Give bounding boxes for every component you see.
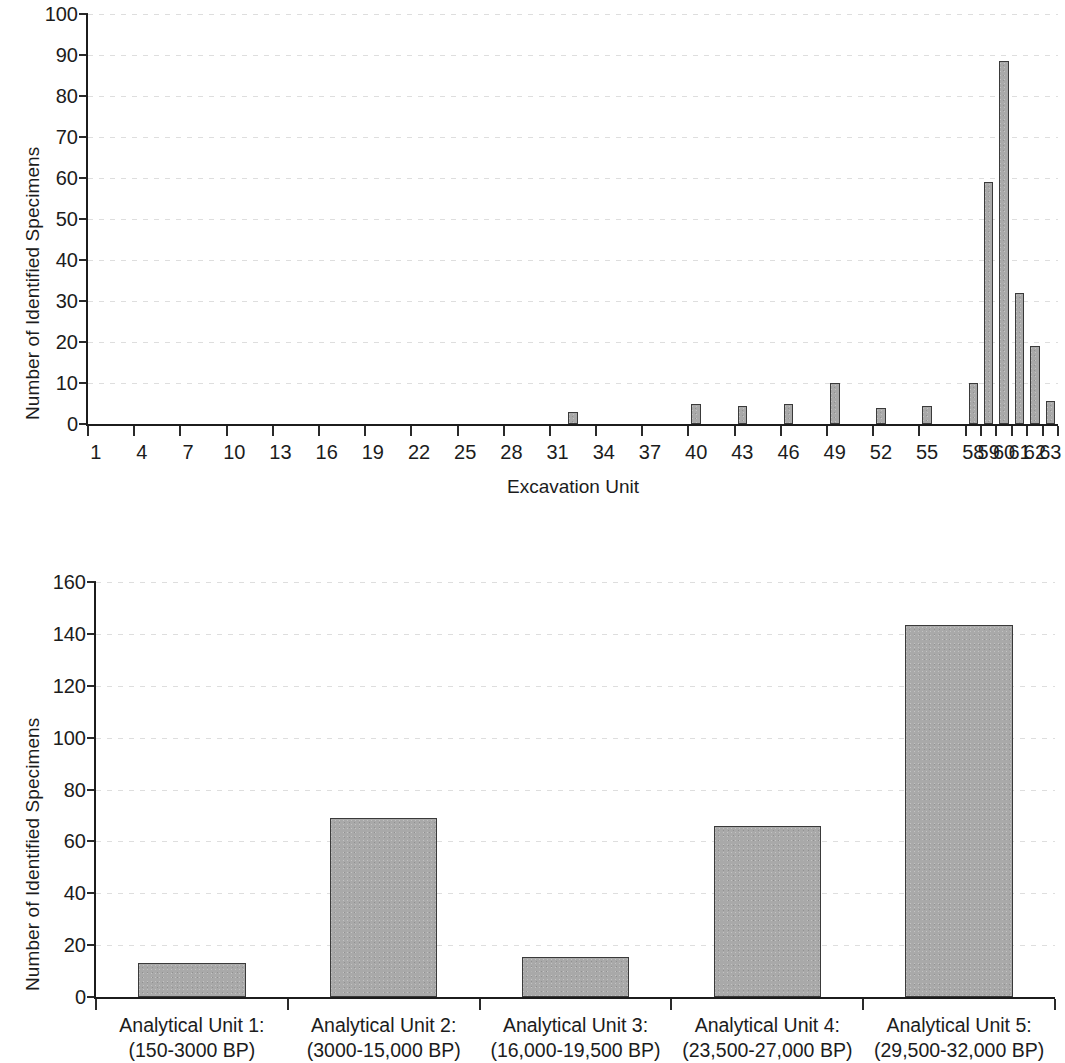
x-tick-mark <box>641 426 643 436</box>
x-tick-label: 52 <box>857 442 905 462</box>
x-tick-label-line: (150-3000 BP) <box>96 1038 288 1063</box>
gridline <box>96 582 1055 583</box>
y-tick-label: 20 <box>28 935 86 955</box>
y-tick-label: 60 <box>28 168 78 188</box>
x-tick-label: Analytical Unit 3:(16,000-19,500 BP) <box>480 1013 672 1063</box>
x-tick-label-line: Analytical Unit 4: <box>671 1013 863 1038</box>
x-axis-title: Excavation Unit <box>88 476 1058 498</box>
bar <box>1030 346 1040 424</box>
bar <box>876 408 886 424</box>
gridline <box>88 342 1058 343</box>
x-tick-label: 28 <box>487 442 535 462</box>
bar <box>830 383 840 424</box>
y-tick-label: 60 <box>28 831 86 851</box>
bar <box>691 404 701 425</box>
x-tick-mark <box>1054 999 1056 1010</box>
x-tick-mark <box>1057 426 1059 436</box>
y-tick-label: 40 <box>28 883 86 903</box>
bar <box>138 963 245 997</box>
y-tick-label: 140 <box>28 624 86 644</box>
x-tick-mark <box>95 999 97 1010</box>
y-tick-label: 100 <box>28 4 78 24</box>
x-tick-label: 46 <box>765 442 813 462</box>
y-tick-label: 30 <box>28 291 78 311</box>
gridline <box>88 178 1058 179</box>
x-tick-mark <box>549 426 551 436</box>
bar <box>522 957 629 997</box>
x-tick-label: 13 <box>256 442 304 462</box>
x-tick-label-line: (3000-15,000 BP) <box>288 1038 480 1063</box>
x-tick-mark <box>318 426 320 436</box>
x-tick-mark <box>670 999 672 1010</box>
x-tick-mark <box>133 426 135 436</box>
gridline <box>88 383 1058 384</box>
x-tick-mark <box>364 426 366 436</box>
x-tick-mark <box>179 426 181 436</box>
bar <box>738 406 748 424</box>
x-tick-label: 4 <box>118 442 166 462</box>
y-tick-label: 80 <box>28 86 78 106</box>
x-axis-line <box>86 424 1058 426</box>
x-tick-label: 34 <box>580 442 628 462</box>
bar <box>969 383 979 424</box>
x-tick-label: 10 <box>210 442 258 462</box>
y-tick-label: 0 <box>28 414 78 434</box>
bar <box>714 826 821 997</box>
gridline <box>88 14 1058 15</box>
bar <box>568 412 578 424</box>
x-tick-mark <box>1042 426 1044 436</box>
bar <box>1046 401 1056 424</box>
x-tick-label: 7 <box>164 442 212 462</box>
x-tick-label: 31 <box>534 442 582 462</box>
y-tick-label: 10 <box>28 373 78 393</box>
x-tick-label: 37 <box>626 442 674 462</box>
y-tick-label: 120 <box>28 676 86 696</box>
gridline <box>88 301 1058 302</box>
x-tick-mark <box>965 426 967 436</box>
x-tick-label: 16 <box>303 442 351 462</box>
gridline <box>88 219 1058 220</box>
x-tick-mark <box>826 426 828 436</box>
x-tick-label-line: (23,500-27,000 BP) <box>671 1038 863 1063</box>
x-tick-mark <box>995 426 997 436</box>
x-tick-label-line: (16,000-19,500 BP) <box>480 1038 672 1063</box>
gridline <box>88 96 1058 97</box>
x-tick-label-line: (29,500-32,000 BP) <box>863 1038 1055 1063</box>
x-tick-label: 1 <box>72 442 120 462</box>
y-tick-label: 40 <box>28 250 78 270</box>
x-tick-mark <box>226 426 228 436</box>
x-tick-label: 49 <box>811 442 859 462</box>
x-tick-mark <box>87 426 89 436</box>
bar <box>905 625 1012 997</box>
x-axis-line <box>94 997 1055 999</box>
x-tick-mark <box>479 999 481 1010</box>
x-tick-label: 22 <box>395 442 443 462</box>
x-tick-label: 63 <box>1026 442 1065 462</box>
y-tick-label: 90 <box>28 45 78 65</box>
analytical-unit-chart: Number of Identified Specimens0204060801… <box>0 555 1065 1055</box>
x-tick-label-line: Analytical Unit 1: <box>96 1013 288 1038</box>
x-tick-mark <box>687 426 689 436</box>
x-tick-mark <box>272 426 274 436</box>
y-tick-label: 80 <box>28 780 86 800</box>
x-tick-mark <box>862 999 864 1010</box>
x-tick-label: 19 <box>349 442 397 462</box>
x-tick-mark <box>734 426 736 436</box>
gridline <box>88 55 1058 56</box>
bar <box>922 406 932 424</box>
y-tick-label: 160 <box>28 572 86 592</box>
bar <box>999 61 1009 424</box>
x-tick-mark <box>457 426 459 436</box>
bar <box>1015 293 1025 424</box>
x-tick-mark <box>1026 426 1028 436</box>
x-tick-mark <box>1011 426 1013 436</box>
x-tick-mark <box>980 426 982 436</box>
gridline <box>88 260 1058 261</box>
x-tick-label: Analytical Unit 4:(23,500-27,000 BP) <box>671 1013 863 1063</box>
x-tick-mark <box>503 426 505 436</box>
y-tick-label: 50 <box>28 209 78 229</box>
y-tick-label: 0 <box>28 987 86 1007</box>
x-tick-label: 40 <box>672 442 720 462</box>
y-axis-line <box>86 14 88 426</box>
